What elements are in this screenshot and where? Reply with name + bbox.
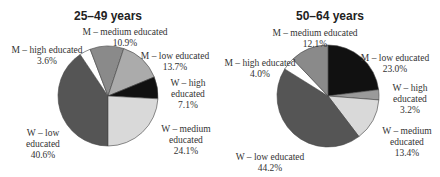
label-w-high: W – higheducated3.2% [380,83,440,116]
label-m-low: M – low educated13.7% [130,51,220,73]
pie-chart-50-64: 50–64 years M – medium educated12.1% M –… [220,0,440,177]
pie-slice [108,96,158,146]
label-w-medium: W – mediumeducated13.4% [374,126,440,159]
label-w-medium: W – mediumeducated24.1% [152,124,220,157]
label-m-medium: M – medium educated12.1% [260,28,370,50]
label-w-low: W – loweducated40.6% [18,128,68,161]
label-m-low: M – low educated23.0% [350,53,440,75]
label-m-high: M – high educated4.0% [220,58,300,80]
pie-chart-25-49: 25–49 years M – medium educated10.9% M –… [0,0,220,177]
label-w-high: W – higheducated7.1% [158,78,218,111]
label-m-high: M – high educated3.6% [2,45,92,67]
label-w-low: W – low educated44.2% [230,152,310,174]
